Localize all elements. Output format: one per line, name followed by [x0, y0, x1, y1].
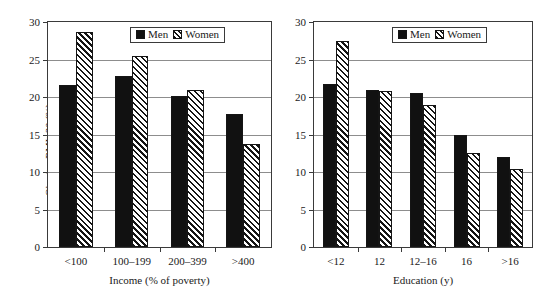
legend-label-women: Women — [447, 29, 481, 40]
y-axis-tick-label: 25 — [295, 54, 306, 65]
x-axis-title-holder-right: Education (y) — [313, 21, 533, 248]
legend-item-women: Women — [435, 29, 481, 40]
x-axis-category-label: 16 — [461, 255, 472, 267]
legend-item-men: Men — [398, 29, 430, 40]
legend-item-women: Women — [173, 29, 219, 40]
x-axis-category-label: 12–16 — [409, 255, 437, 267]
y-axis-tick-label: 0 — [35, 242, 41, 253]
legend-swatch-women-icon — [173, 30, 182, 39]
y-axis-tick-label: 25 — [29, 54, 40, 65]
legend-label-women: Women — [185, 29, 219, 40]
legend-item-men: Men — [136, 29, 168, 40]
legend-label-men: Men — [148, 29, 168, 40]
x-axis-title-left: Income (% of poverty) — [47, 274, 272, 286]
y-axis-tick-label: 15 — [29, 129, 40, 140]
x-axis-category-label: <100 — [65, 255, 88, 267]
x-axis-category-label: <12 — [327, 255, 344, 267]
legend-income: Men Women — [130, 27, 225, 43]
legend-swatch-men-icon — [136, 30, 145, 39]
y-axis-tick-label: 30 — [295, 17, 306, 28]
y-axis-tick-label: 20 — [295, 92, 306, 103]
x-axis-title-holder-left: Income (% of poverty) — [47, 21, 272, 248]
y-axis-tick-label: 15 — [295, 129, 306, 140]
legend-swatch-men-icon — [398, 30, 407, 39]
chart-panel-income: Obesity, BMI>30 (%) Men Women 0510152025… — [0, 0, 278, 299]
y-axis-tick-label: 10 — [29, 167, 40, 178]
y-axis-tick-label: 10 — [295, 167, 306, 178]
y-axis-tick-label: 30 — [29, 17, 40, 28]
x-axis-category-label: 200–399 — [168, 255, 207, 267]
legend-swatch-women-icon — [435, 30, 444, 39]
legend-label-men: Men — [410, 29, 430, 40]
legend-education: Men Women — [392, 27, 487, 43]
chart-panel-education: Men Women 051015202530<121212–1616>16 Ed… — [278, 0, 550, 299]
y-axis-tick-label: 5 — [35, 204, 41, 215]
x-axis-category-label: >400 — [232, 255, 255, 267]
x-axis-category-label: 12 — [374, 255, 385, 267]
x-axis-category-label: 100–199 — [112, 255, 151, 267]
x-axis-category-label: >16 — [502, 255, 519, 267]
y-axis-tick-label: 20 — [29, 92, 40, 103]
y-axis-tick-label: 5 — [301, 204, 307, 215]
x-axis-title-right: Education (y) — [313, 274, 533, 286]
y-axis-tick-label: 0 — [301, 242, 307, 253]
figure-two-panel-bar-chart: Obesity, BMI>30 (%) Men Women 0510152025… — [0, 0, 550, 299]
